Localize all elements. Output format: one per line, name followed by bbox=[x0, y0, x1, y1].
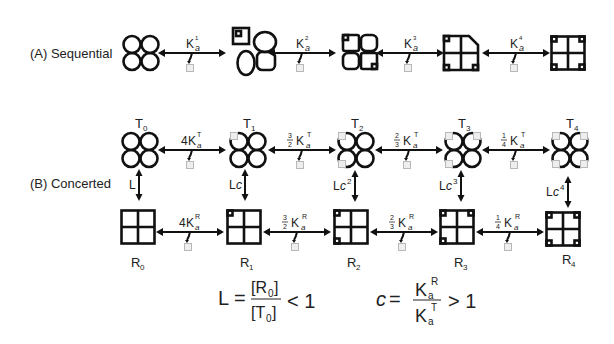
equation-l: L = [R 0 ] [T 0 ] < 1 bbox=[218, 279, 315, 324]
svg-text:2: 2 bbox=[347, 177, 352, 186]
svg-text:a: a bbox=[306, 141, 311, 150]
svg-text:K: K bbox=[415, 306, 427, 326]
svg-text:2: 2 bbox=[305, 35, 309, 41]
vertical-equilibrium-arrow-0: L bbox=[129, 169, 143, 201]
svg-text:c: c bbox=[446, 179, 452, 193]
svg-text:1: 1 bbox=[496, 214, 500, 221]
r-equilibrium-arrow-3: 2 3 K R a bbox=[370, 213, 438, 251]
panel-b-concerted: (B) Concerted T 0 T 1 T 2 T 3 T 4 bbox=[30, 116, 588, 272]
svg-text:]: ] bbox=[272, 304, 276, 321]
svg-text:c: c bbox=[236, 178, 242, 192]
equilibrium-arrow-a1: K 1 a bbox=[158, 35, 226, 72]
svg-text:c: c bbox=[340, 179, 346, 193]
svg-text:K: K bbox=[296, 37, 304, 51]
svg-text:T: T bbox=[458, 116, 466, 131]
svg-text:L =: L = bbox=[218, 287, 246, 309]
svg-text:0: 0 bbox=[140, 263, 145, 272]
svg-text:L: L bbox=[546, 185, 553, 199]
svg-text:R: R bbox=[302, 213, 307, 220]
svg-text:3: 3 bbox=[390, 223, 394, 230]
svg-text:3: 3 bbox=[466, 124, 471, 133]
svg-text:a: a bbox=[519, 43, 524, 53]
svg-text:3: 3 bbox=[283, 214, 287, 221]
svg-text:R: R bbox=[131, 255, 140, 270]
svg-text:T: T bbox=[521, 131, 526, 138]
svg-text:K: K bbox=[398, 216, 406, 230]
t1-tense-tetramer-icon bbox=[231, 133, 266, 168]
svg-text:a: a bbox=[520, 141, 525, 150]
svg-text:R: R bbox=[515, 213, 520, 220]
svg-text:T: T bbox=[351, 116, 359, 131]
svg-text:R: R bbox=[240, 255, 249, 270]
panel-a-sequential: (A) Sequential bbox=[30, 28, 585, 75]
r0-relaxed-tetramer-icon bbox=[122, 211, 155, 244]
r4-relaxed-tetramer-icon bbox=[547, 213, 580, 246]
t3-tense-tetramer-icon bbox=[446, 133, 481, 168]
svg-text:2: 2 bbox=[390, 214, 394, 221]
svg-text:4: 4 bbox=[181, 134, 188, 148]
svg-text:K: K bbox=[188, 134, 196, 148]
svg-text:< 1: < 1 bbox=[287, 290, 315, 312]
svg-text:R: R bbox=[409, 213, 414, 220]
svg-text:R: R bbox=[454, 255, 463, 270]
svg-text:L: L bbox=[129, 178, 136, 192]
tetramer-one-bound-icon bbox=[233, 28, 276, 75]
svg-text:L: L bbox=[333, 179, 340, 193]
t4-tense-tetramer-icon bbox=[553, 133, 588, 168]
r3-relaxed-tetramer-icon bbox=[441, 211, 474, 244]
svg-text:K: K bbox=[404, 37, 412, 51]
t-equilibrium-arrow-1: 4 K T a bbox=[158, 131, 226, 169]
svg-text:a: a bbox=[413, 141, 418, 150]
svg-text:a: a bbox=[197, 141, 202, 150]
svg-text:T: T bbox=[307, 131, 312, 138]
svg-text:T: T bbox=[414, 131, 419, 138]
vertical-equilibrium-arrow-4: L c 4 bbox=[546, 176, 572, 208]
svg-text:K: K bbox=[186, 37, 194, 51]
r-equilibrium-arrow-2: 3 2 K R a bbox=[263, 213, 331, 251]
svg-text:2: 2 bbox=[359, 124, 364, 133]
tetramer-unbound-icon bbox=[124, 36, 159, 70]
t-equilibrium-arrow-2: 3 2 K T a bbox=[268, 131, 336, 169]
svg-text:1: 1 bbox=[195, 35, 199, 41]
svg-text:0: 0 bbox=[143, 124, 148, 133]
t-equilibrium-arrow-4: 1 4 K T a bbox=[482, 131, 550, 169]
svg-text:a: a bbox=[305, 43, 310, 53]
svg-text:K: K bbox=[403, 134, 411, 148]
t-state-labels: T 0 T 1 T 2 T 3 T 4 bbox=[135, 116, 579, 133]
mwc-diagram: (A) Sequential bbox=[0, 0, 614, 344]
equilibrium-arrow-a4: K 4 a bbox=[482, 35, 550, 72]
r-equilibrium-arrow-4: 1 4 K R a bbox=[476, 213, 544, 251]
svg-text:T: T bbox=[243, 116, 251, 131]
svg-text:K: K bbox=[186, 216, 194, 230]
svg-text:T: T bbox=[197, 131, 202, 138]
svg-text:K: K bbox=[510, 37, 518, 51]
vertical-equilibrium-arrow-1: L c bbox=[229, 169, 249, 201]
tetramer-three-bound-icon bbox=[444, 36, 478, 70]
svg-text:a: a bbox=[514, 223, 519, 232]
tetramer-four-bound-icon bbox=[552, 37, 585, 70]
svg-text:T: T bbox=[566, 116, 574, 131]
equation-c: c = K a R K a T > 1 bbox=[376, 276, 476, 327]
svg-text:]: ] bbox=[274, 279, 278, 296]
r-equilibrium-arrow-1: 4 K R a bbox=[156, 213, 224, 251]
svg-text:a: a bbox=[301, 223, 306, 232]
svg-text:3: 3 bbox=[463, 263, 468, 272]
svg-text:R: R bbox=[347, 255, 356, 270]
svg-text:3: 3 bbox=[413, 35, 417, 41]
svg-text:3: 3 bbox=[288, 132, 292, 139]
svg-text:4: 4 bbox=[574, 124, 579, 133]
svg-text:1: 1 bbox=[249, 263, 254, 272]
svg-text:R: R bbox=[562, 252, 571, 267]
svg-text:[T: [T bbox=[251, 304, 265, 321]
svg-text:2: 2 bbox=[356, 263, 361, 272]
svg-text:4: 4 bbox=[560, 183, 565, 192]
svg-text:a: a bbox=[195, 43, 200, 53]
r1-relaxed-tetramer-icon bbox=[228, 211, 261, 244]
svg-text:2: 2 bbox=[288, 141, 292, 148]
svg-text:a: a bbox=[408, 223, 413, 232]
svg-text:a: a bbox=[195, 223, 200, 232]
svg-text:K: K bbox=[291, 216, 299, 230]
t0-tense-tetramer-icon bbox=[123, 133, 158, 167]
svg-text:=: = bbox=[389, 288, 401, 310]
panel-a-label: (A) Sequential bbox=[30, 46, 112, 61]
